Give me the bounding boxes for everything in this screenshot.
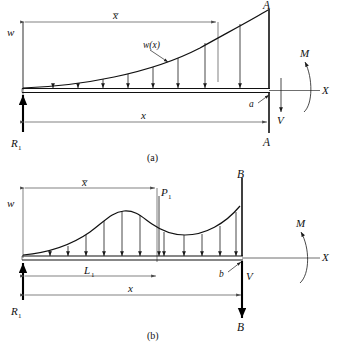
label-axis-a: X [321, 84, 330, 96]
label-section-bottom-a: A [262, 136, 271, 148]
beam-a [22, 89, 270, 93]
label-x-bar-b: x̅ [81, 176, 88, 188]
panel-a: w x̅ w(x) x R 1 A A a V M X (a) [7, 0, 330, 164]
label-axis-b: X [321, 251, 330, 263]
label-moment-a: M [299, 47, 310, 59]
label-x-bar-a: x̅ [112, 9, 119, 21]
beam-b [22, 256, 243, 260]
svg-text:1: 1 [18, 312, 22, 320]
label-moment-b: M [295, 217, 306, 229]
caption-b: (b) [147, 330, 159, 342]
svg-text:R: R [10, 305, 18, 317]
label-reaction-b: R 1 [10, 305, 22, 320]
cut-point-leader-b [228, 262, 241, 272]
cut-point-leader-a [258, 95, 269, 103]
label-section-top-b: B [237, 168, 244, 180]
label-x-a: x [140, 109, 146, 121]
svg-text:1: 1 [18, 144, 22, 152]
svg-text:P: P [160, 186, 168, 198]
label-w-b: w [7, 197, 15, 209]
label-reaction-a: R 1 [10, 137, 22, 152]
label-x-b: x [127, 282, 133, 294]
moment-arrow-b [300, 232, 308, 283]
label-L1-b: L 1 [83, 264, 95, 279]
beam-diagram-svg: w x̅ w(x) x R 1 A A a V M X (a) [0, 0, 338, 342]
dimension-x-bar-a [23, 22, 218, 95]
moment-arrow-a [304, 62, 311, 112]
beam-diagram-figure: w x̅ w(x) x R 1 A A a V M X (a) [0, 0, 338, 342]
label-section-top-a: A [262, 0, 271, 11]
label-cut-point-b: b [219, 269, 224, 279]
label-cut-point-a: a [249, 99, 254, 109]
load-curve-b [23, 206, 240, 255]
label-w-a: w [7, 26, 15, 38]
label-w-of-x-a: w(x) [143, 40, 160, 51]
label-point-load-b: P 1 [160, 186, 172, 201]
label-section-bottom-b: B [237, 321, 244, 333]
svg-text:1: 1 [91, 271, 95, 279]
dimension-x-bar-b [23, 188, 157, 262]
label-shear-a: V [277, 114, 285, 126]
svg-text:R: R [10, 137, 18, 149]
label-shear-b: V [246, 270, 254, 282]
caption-a: (a) [147, 152, 158, 164]
panel-b: w x̅ P 1 L 1 x R 1 B B b V M X (b) [7, 168, 330, 342]
load-arrows-a [53, 24, 240, 88]
svg-text:L: L [83, 264, 90, 276]
svg-text:1: 1 [168, 193, 172, 201]
load-curve-leader-a [150, 50, 168, 62]
